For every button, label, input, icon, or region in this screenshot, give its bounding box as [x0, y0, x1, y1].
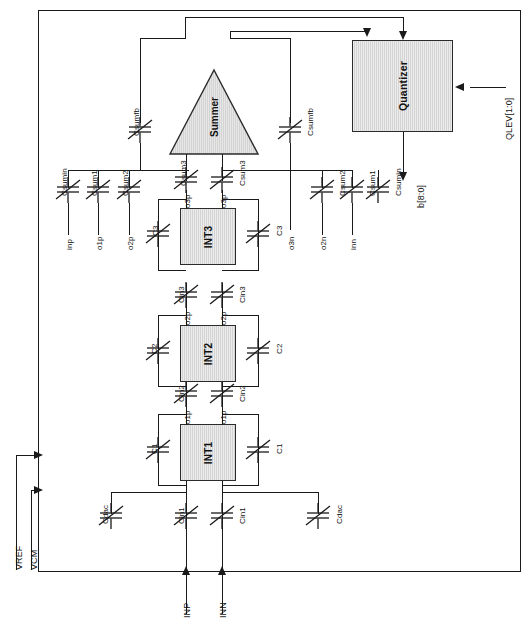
integrator-2-label: INT2 — [203, 342, 214, 364]
vref-arrowhead — [34, 451, 43, 459]
quantizer-output-arrowhead — [399, 172, 407, 181]
qlev-wire — [470, 87, 506, 88]
csumin-left-node-wire — [68, 203, 69, 235]
vcm-arrowhead — [34, 486, 43, 494]
csum1-right-node-label: inn — [349, 239, 358, 250]
int1-out-left-label: o1p — [183, 410, 192, 424]
csumfb-left-wire-lower — [140, 143, 141, 171]
int2-out-left-label: o2p — [183, 311, 192, 325]
capacitor-csumfb-right — [277, 117, 303, 143]
feedback-inner-to-csumfb-right — [230, 38, 291, 39]
c3-right-loop-bottom — [222, 270, 259, 271]
capacitor-c3-right — [245, 221, 271, 247]
csum2-right-node-label: o2n — [319, 236, 328, 250]
feedback-outer-to-csumfb-left — [140, 38, 186, 39]
summer-output-right-stub — [222, 154, 223, 171]
csum3n-node-wire — [290, 170, 291, 230]
c3-left-loop-bottom — [158, 270, 186, 271]
csum1-left-node-label: o1p — [95, 236, 104, 250]
csum3-right-label: Csum3 — [238, 160, 247, 186]
csumin-left-node-label: inp — [65, 239, 74, 250]
c3-right-label: C3 — [275, 226, 284, 236]
csumfb-left-label: Csumfb — [132, 108, 141, 136]
c2-right-loop-bottom — [222, 386, 259, 387]
quantizer-output-label: b[8:0] — [416, 185, 426, 208]
cin1-right-label: Cin1 — [238, 507, 247, 524]
cin3-right-label: Cin3 — [238, 286, 247, 303]
vcm-label: VCM — [29, 550, 39, 570]
dac-bus-rail-left — [111, 492, 187, 493]
c1-right-loop-top — [222, 414, 259, 415]
capacitor-cdac-right — [305, 503, 331, 529]
feedback-inner-arrowhead — [363, 28, 371, 37]
capacitor-cin1-right — [209, 503, 235, 529]
circuit-diagram-canvas: VREF VCM INP INN Cdac — [0, 0, 529, 628]
capacitor-csum1-right — [339, 177, 365, 203]
csumfb-right-wire-lower — [290, 143, 291, 171]
c1-right-label: C1 — [275, 444, 284, 454]
csum2-left-label: Csum2 — [121, 170, 130, 196]
capacitor-c1-right — [245, 437, 271, 463]
csum1-left-label: Csum1 — [90, 170, 99, 196]
csumfb-right-wire-upper — [290, 38, 291, 123]
summer-output-left-stub — [186, 154, 187, 171]
inn-label: INN — [218, 602, 228, 618]
csum1-right-node-wire — [352, 203, 353, 235]
csum2-left-node-wire — [129, 203, 130, 235]
c1-right-loop-bottom — [222, 485, 259, 486]
qlev-label: QLEV[1:0] — [504, 98, 514, 140]
c3-right-loop-top — [222, 199, 259, 200]
summing-rail-right — [222, 170, 352, 171]
feedback-inner-horizontal — [230, 31, 367, 32]
c2-left-label: C2 — [150, 344, 159, 354]
csum3-right-node-label: o3n — [287, 236, 296, 250]
cdac-right-label: Cdac — [335, 505, 344, 524]
c2-left-loop-top — [158, 315, 186, 316]
cdac-left-label: Cdac — [101, 505, 110, 524]
vref-label: VREF — [14, 546, 24, 570]
csum2-right-node-wire — [322, 203, 323, 235]
summer-label: Summer — [209, 97, 220, 137]
integrator-1-label: INT1 — [203, 441, 214, 463]
qlev-arrowhead — [455, 83, 464, 91]
feedback-outer-horizontal — [185, 17, 404, 18]
c1-left-loop-bottom — [158, 485, 186, 486]
feedback-outer-arrowhead — [399, 31, 407, 40]
csumin-right-stub — [378, 170, 379, 188]
integrator-1-block[interactable]: INT1 — [180, 424, 236, 481]
cin1-left-label: Cin1 — [177, 507, 186, 524]
cin2-left-label: Cin2 — [177, 385, 186, 402]
capacitor-cin2-right — [209, 381, 235, 407]
cin3-left-label: Cin3 — [177, 286, 186, 303]
c3-left-label: C3 — [151, 226, 160, 236]
int1-out-right-label: o1p — [219, 410, 228, 424]
c1-left-loop-top — [158, 414, 186, 415]
integrator-3-block[interactable]: INT3 — [180, 208, 236, 265]
quantizer-label: Quantizer — [397, 61, 409, 111]
integrator-3-label: INT3 — [203, 225, 214, 247]
c1-left-label: C1 — [150, 444, 159, 454]
c2-right-loop-top — [222, 315, 259, 316]
capacitor-c2-right — [245, 338, 271, 364]
c3-left-loop-top — [158, 199, 186, 200]
feedback-inner-left-drop — [230, 31, 231, 38]
dac-bus-rail-right — [222, 492, 319, 493]
quantizer-output-wire — [403, 132, 404, 174]
csumin-left-label: Csumin — [60, 168, 69, 196]
feedback-outer-left-drop — [185, 17, 186, 38]
csum2-left-node-label: o2p — [126, 236, 135, 250]
int2-out-right-label: o2p — [219, 311, 228, 325]
c2-right-label: C2 — [275, 344, 284, 354]
c2-left-loop-bottom — [158, 386, 186, 387]
inp-label: INP — [182, 603, 192, 618]
summer-block[interactable]: Summer — [168, 68, 260, 156]
int3-out-left-label: o3p — [183, 194, 192, 208]
capacitor-cin3-right — [209, 282, 235, 308]
csum1-left-node-wire — [98, 203, 99, 235]
int3-out-right-label: o3p — [219, 194, 228, 208]
capacitor-csum2-right — [309, 177, 335, 203]
csumfb-right-label: Csumfb — [306, 108, 315, 136]
integrator-2-block[interactable]: INT2 — [180, 325, 236, 382]
cin2-right-label: Cin2 — [238, 385, 247, 402]
quantizer-block[interactable]: Quantizer — [352, 40, 453, 132]
